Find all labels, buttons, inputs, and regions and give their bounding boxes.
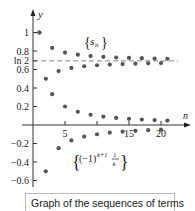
data-point <box>146 61 150 65</box>
data-point <box>146 128 150 132</box>
x-tick-label: 5 <box>63 128 68 139</box>
data-point <box>133 62 137 66</box>
svg-text:(−1): (−1) <box>79 153 96 165</box>
y-ticks: 10.80.60.40.2−0.2−0.4−0.6 <box>11 27 37 186</box>
data-point <box>76 110 80 114</box>
data-point <box>63 50 67 54</box>
svg-text:}: } <box>120 152 129 172</box>
x-axis-arrow-icon <box>184 123 191 128</box>
y-tick-label: −0.4 <box>11 157 29 168</box>
svg-text:n: n <box>95 41 99 49</box>
data-point <box>69 138 73 142</box>
y-tick-label: 1 <box>24 27 29 38</box>
y-tick-label: 0.6 <box>17 64 30 75</box>
data-point <box>159 128 163 132</box>
svg-text:k+1: k+1 <box>97 151 108 158</box>
data-point <box>133 129 137 133</box>
data-point <box>57 146 61 150</box>
sn-series-label: { s n } <box>84 35 108 50</box>
data-point <box>82 64 86 68</box>
data-point <box>101 55 105 59</box>
x-axis-label: n <box>183 110 188 121</box>
svg-text:k: k <box>113 160 117 168</box>
data-point <box>95 63 99 67</box>
figure-caption: Graph of the sequences of terms <box>25 193 175 211</box>
data-point <box>37 30 41 34</box>
data-point <box>114 55 118 59</box>
data-point <box>153 118 157 122</box>
y-axis-arrow-icon <box>31 9 36 16</box>
svg-text:}: } <box>101 35 108 50</box>
data-point <box>121 129 125 133</box>
y-tick-label: −0.6 <box>11 175 29 186</box>
data-point <box>89 54 93 58</box>
y-tick-label: 0.2 <box>17 101 30 112</box>
data-point <box>82 134 86 138</box>
sequence-chart: ln 2 10.80.60.40.2−0.2−0.4−0.6 51520 y n… <box>0 0 195 211</box>
data-point <box>101 114 105 118</box>
data-point <box>127 117 131 121</box>
data-point <box>63 104 67 108</box>
data-point <box>165 118 169 122</box>
ak-series-label: { (−1) k+1 1 k } <box>72 151 129 172</box>
data-point <box>57 69 61 73</box>
data-point <box>95 132 99 136</box>
data-point <box>76 53 80 57</box>
data-point <box>50 92 54 96</box>
svg-text:1: 1 <box>113 151 117 159</box>
y-axis-label: y <box>37 8 43 20</box>
data-point <box>140 117 144 121</box>
data-point <box>50 46 54 50</box>
data-point <box>127 56 131 60</box>
data-point <box>153 56 157 60</box>
data-point <box>89 113 93 117</box>
x-tick-label: 15 <box>124 128 134 139</box>
data-point <box>69 66 73 70</box>
data-point <box>121 62 125 66</box>
x-ticks: 51520 <box>63 121 167 139</box>
y-tick-label: 0.4 <box>17 83 30 94</box>
data-point <box>44 169 48 173</box>
y-tick-label: −0.2 <box>11 138 29 149</box>
data-point <box>108 62 112 66</box>
svg-text:s: s <box>90 35 94 47</box>
data-point <box>165 57 169 61</box>
data-point <box>159 61 163 65</box>
data-point <box>108 131 112 135</box>
data-point <box>140 56 144 60</box>
data-point <box>114 116 118 120</box>
data-point <box>44 77 48 81</box>
y-tick-label: 0.8 <box>17 46 30 57</box>
